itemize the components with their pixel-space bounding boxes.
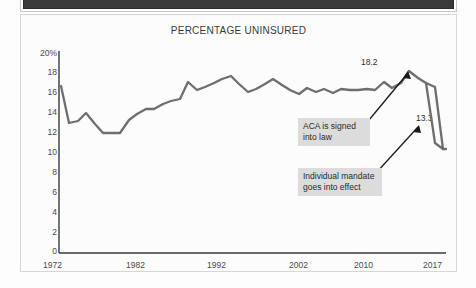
data-line-percentage-uninsured [61,71,443,149]
mandate-annotation-arrowhead [413,125,421,133]
mandate-annotation-arrow [376,127,418,173]
chart-card: PERCENTAGE UNINSURED 20% 18 16 14 12 10 … [20,14,457,272]
aca-signed-annotation: ACA is signed into law [298,118,370,146]
cropped-dark-banner [20,0,457,12]
screenshot-root: PERCENTAGE UNINSURED 20% 18 16 14 12 10 … [0,0,476,288]
aca-annotation-arrow [369,73,408,120]
individual-mandate-annotation: Individual mandate goes into effect [298,168,382,196]
dark-banner-fill [23,0,454,9]
plot-area [21,15,458,273]
